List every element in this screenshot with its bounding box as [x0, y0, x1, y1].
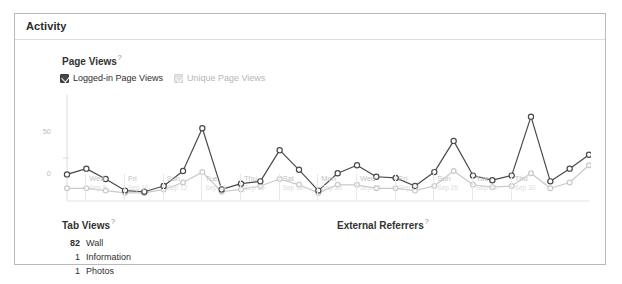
page-views-help-icon[interactable]: ?: [118, 54, 122, 61]
tab-views-label[interactable]: Wall: [86, 238, 103, 248]
x-axis-tick: ThuSep 30: [511, 174, 563, 200]
tab-views-list: 82Wall1Information1Photos: [62, 238, 262, 280]
x-axis-tick-date: Sep 30: [515, 183, 563, 192]
tab-views-count: 82: [62, 238, 80, 248]
data-point-marker[interactable]: [84, 166, 89, 171]
page-views-heading-label: Page Views: [62, 56, 117, 67]
tab-views-heading-label: Tab Views: [62, 220, 110, 231]
data-point-marker[interactable]: [180, 168, 185, 173]
page-views-legend: Logged-in Page Views Unique Page Views: [60, 73, 265, 83]
external-referrers-heading-label: External Referrers: [337, 220, 424, 231]
legend-item-unique-page-views[interactable]: Unique Page Views: [174, 73, 265, 83]
tab-views-count: 1: [62, 252, 80, 262]
tab-views-count: 1: [62, 266, 80, 276]
data-point-marker[interactable]: [586, 152, 591, 157]
tab-views-heading: Tab Views?: [62, 219, 114, 231]
x-axis-labels: WedSep 8FriSep 10SunSep 12TueSep 14ThuSe…: [55, 174, 591, 202]
page-views-heading: Page Views?: [62, 55, 121, 67]
data-point-marker[interactable]: [451, 169, 456, 174]
page-title: Activity: [26, 20, 67, 32]
tab-views-row: 1Photos: [62, 266, 262, 280]
data-point-marker[interactable]: [528, 114, 533, 119]
y-axis-tick-50: 50: [33, 127, 51, 136]
x-axis-tick-day: Thu: [515, 174, 563, 183]
activity-panel-screenshot: Activity Page Views? Logged-in Page View…: [0, 0, 622, 284]
data-point-marker[interactable]: [354, 163, 359, 168]
panel-body: Page Views? Logged-in Page Views Unique …: [15, 41, 605, 264]
checkbox-checked-icon[interactable]: [174, 74, 183, 83]
data-point-marker[interactable]: [587, 163, 591, 168]
legend-item-label: Unique Page Views: [187, 73, 265, 83]
data-point-marker[interactable]: [277, 148, 282, 153]
data-point-marker[interactable]: [567, 166, 572, 171]
data-point-marker[interactable]: [200, 126, 205, 131]
data-point-marker[interactable]: [451, 138, 456, 143]
data-point-marker[interactable]: [296, 167, 301, 172]
tab-views-row: 1Information: [62, 252, 262, 266]
tab-views-help-icon[interactable]: ?: [111, 218, 115, 225]
tab-views-label[interactable]: Photos: [86, 266, 114, 276]
external-referrers-help-icon[interactable]: ?: [425, 218, 429, 225]
tab-views-label[interactable]: Information: [86, 252, 131, 262]
panel-header: Activity: [15, 14, 605, 40]
activity-panel: Activity Page Views? Logged-in Page View…: [14, 13, 606, 265]
legend-item-label: Logged-in Page Views: [73, 73, 163, 83]
tab-views-row: 82Wall: [62, 238, 262, 252]
external-referrers-heading: External Referrers?: [337, 219, 428, 231]
legend-item-logged-in-page-views[interactable]: Logged-in Page Views: [60, 73, 163, 83]
y-axis-tick-0: 0: [33, 169, 51, 178]
checkbox-checked-icon[interactable]: [60, 74, 69, 83]
